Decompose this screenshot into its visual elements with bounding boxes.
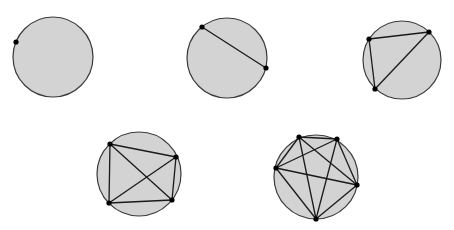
point-dot <box>169 197 174 202</box>
circle-figure-2-points <box>187 18 269 98</box>
circle-figure-3-points <box>363 21 441 99</box>
point-dot <box>354 182 359 187</box>
point-dot <box>106 200 111 205</box>
circle <box>187 18 267 98</box>
circle-chords-diagram <box>0 0 454 230</box>
point-dot <box>313 216 318 221</box>
point-dot <box>372 86 377 91</box>
point-dot <box>13 39 18 44</box>
point-dot <box>426 29 431 34</box>
point-dot <box>263 65 268 70</box>
circle <box>13 17 93 97</box>
point-dot <box>107 141 112 146</box>
circle-figure-5-points <box>273 134 359 221</box>
point-dot <box>273 165 278 170</box>
point-dot <box>334 136 339 141</box>
point-dot <box>296 134 301 139</box>
point-dot <box>366 36 371 41</box>
point-dot <box>199 24 204 29</box>
point-dot <box>173 154 178 159</box>
circle-figure-1-points <box>13 17 93 97</box>
circle-figure-4-points <box>97 132 181 216</box>
